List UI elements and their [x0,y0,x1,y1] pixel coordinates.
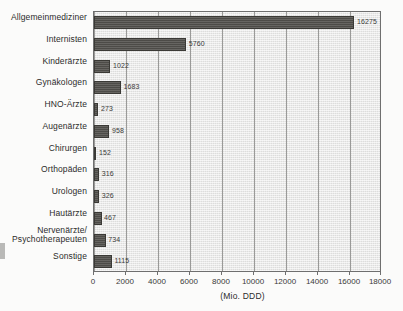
bar [94,60,110,73]
bar-value-label: 316 [102,167,114,181]
bar-row: 326 [94,186,380,208]
scan-artifact [0,243,5,259]
plot-area: 16275 5760 1022 1683 273 958 [93,11,381,272]
bar-value-label: 152 [99,146,111,160]
category-label: Gynäkologen [36,78,87,88]
x-tick-label: 14000 [306,276,328,287]
x-tick [157,272,158,275]
bar [94,38,186,51]
bar-value-label: 958 [112,124,124,138]
category-axis-labels: Allgemeinmediziner Internisten Kinderärz… [0,11,90,272]
bar-row: 467 [94,208,380,230]
category-label: Allgemeinmediziner [11,13,87,23]
bar [94,103,98,116]
category-label: Orthopäden [41,165,87,175]
category-label: HNO-Ärzte [45,100,87,110]
bar [94,190,99,203]
bar-row: 1022 [94,56,380,78]
x-tick-label: 16000 [338,276,360,287]
category-label: Sonstige [53,252,87,262]
x-tick [189,272,190,275]
bar-value-label: 1683 [124,80,140,94]
x-tick-label: 4000 [148,276,166,287]
category-label: Kinderärzte [42,57,87,67]
x-axis-tick-labels: 0 2000 4000 6000 8000 10000 12000 14000 … [0,276,403,288]
x-tick [317,272,318,275]
x-tick [221,272,222,275]
bar [94,212,102,225]
bar [94,147,96,160]
bar-series: 16275 5760 1022 1683 273 958 [94,12,380,271]
bar-row: 152 [94,143,380,165]
category-label: Urologen [52,187,87,197]
category-label: Internisten [46,35,87,45]
bar-value-label: 326 [102,189,114,203]
x-axis-title: (Mio. DDD) [0,291,403,301]
bar [94,16,354,29]
bar [94,168,99,181]
x-tick [380,272,381,275]
bar-value-label: 5760 [189,37,205,51]
bar [94,125,109,138]
x-axis-title-text: (Mio. DDD) [220,291,265,301]
category-label: Chirurgen [49,144,87,154]
x-tick-label: 8000 [212,276,230,287]
bar-row: 1683 [94,77,380,99]
bar-row: 316 [94,164,380,186]
category-label: Augenärzte [43,122,87,132]
bar-value-label: 16275 [357,15,377,29]
bar-value-label: 734 [108,233,120,247]
x-tick [125,272,126,275]
x-tick-label: 6000 [180,276,198,287]
bar-value-label: 1022 [113,59,129,73]
bar-chart: Allgemeinmediziner Internisten Kinderärz… [0,0,403,311]
category-label: Hautärzte [49,209,87,219]
bar-value-label: 1115 [114,254,129,268]
bar-value-label: 273 [101,102,113,116]
bar-row: 5760 [94,34,380,56]
category-label: Nervenärzte/ Psychotherapeuten [12,226,87,245]
x-tick [285,272,286,275]
bar-row: 16275 [94,12,380,34]
x-tick [349,272,350,275]
x-tick-label: 2000 [116,276,134,287]
x-tick-label: 18000 [369,276,391,287]
bar-row: 273 [94,99,380,121]
bar-row: 958 [94,121,380,143]
x-tick-label: 0 [91,276,95,287]
x-tick-label: 10000 [242,276,264,287]
x-tick-label: 12000 [274,276,296,287]
bar-row: 734 [94,230,380,252]
bar [94,81,121,94]
bar-value-label: 467 [104,211,116,225]
x-tick [253,272,254,275]
x-tick [93,272,94,275]
bar-row: 1115 [94,251,380,272]
bar [94,234,106,247]
bar [94,255,112,268]
